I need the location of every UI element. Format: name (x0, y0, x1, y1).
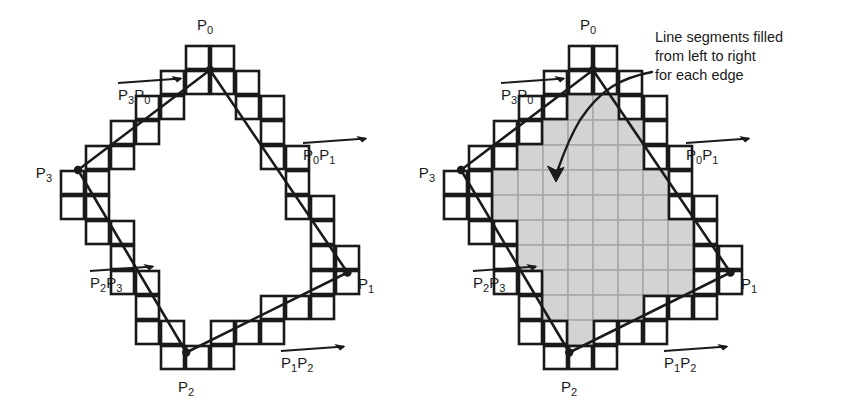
vertex-dot-P0 (206, 66, 214, 74)
vertex-label-P3: P3 (419, 164, 435, 184)
boundary-cell (644, 121, 667, 144)
boundary-cell (469, 221, 492, 244)
boundary-cell (594, 321, 617, 344)
boundary-cell (594, 346, 617, 369)
edge-label-text: P3P0 (501, 86, 533, 106)
boundary-cell (719, 246, 742, 269)
edge-label-text-b: P (134, 86, 144, 103)
filled-cell (593, 170, 618, 195)
boundary-cell (211, 321, 234, 344)
boundary-cell (544, 71, 567, 94)
filled-cell (543, 245, 568, 270)
boundary-cell (261, 296, 284, 319)
filled-cell (568, 270, 593, 295)
filled-cell (618, 145, 643, 170)
filled-cell (568, 170, 593, 195)
edge-label-text-b: P (680, 354, 690, 371)
edge-label-P1P2: P1P2 (281, 345, 344, 374)
filled-cell (543, 220, 568, 245)
edge-label-text: P1P2 (281, 354, 313, 374)
vector-overbar (686, 139, 749, 144)
filled-cell (543, 145, 568, 170)
vertex-dot-P3 (74, 166, 82, 174)
filled-cell (493, 170, 518, 195)
boundary-cell (694, 296, 717, 319)
vertex-label-subscript: 0 (207, 24, 213, 36)
panel-outline-only: P0P1P2P3P3P0P0P1P2P3P1P2 (36, 16, 374, 398)
edge-label-sub-b: 3 (499, 282, 505, 294)
vector-overbar (664, 347, 727, 352)
filled-cell (668, 245, 693, 270)
filled-cell (593, 145, 618, 170)
boundary-cell (519, 321, 542, 344)
vertex-label-P2: P2 (178, 378, 194, 398)
edge-label-P1P2: P1P2 (664, 345, 727, 374)
boundary-cells (61, 46, 359, 369)
boundary-cell (261, 96, 284, 119)
boundary-cell (311, 296, 334, 319)
filled-cell (593, 120, 618, 145)
filled-cell (643, 245, 668, 270)
boundary-cell (186, 346, 209, 369)
edge-label-text: P1P2 (664, 354, 696, 374)
annotation-line: from left to right (655, 48, 756, 64)
filled-cell (593, 295, 618, 320)
edge-label-text: P3P0 (118, 86, 150, 106)
rasterized-polygon-diagram: P0P1P2P3P3P0P0P1P2P3P1P2P0P1P2P3P3P0P0P1… (0, 0, 847, 412)
boundary-cell (544, 346, 567, 369)
edge-label-sub-b: 3 (116, 282, 122, 294)
boundary-cell (694, 196, 717, 219)
filled-cell (543, 195, 568, 220)
vertex-dot-P1 (726, 268, 734, 276)
boundary-cell (161, 346, 184, 369)
filled-cell (668, 270, 693, 295)
vertex-label-subscript: 1 (751, 283, 757, 295)
vertex-label-P2: P2 (561, 378, 577, 398)
vertex-label-P0: P0 (197, 16, 213, 36)
filled-cell (618, 270, 643, 295)
filled-cell (618, 170, 643, 195)
filled-cell (493, 195, 518, 220)
boundary-cell (311, 196, 334, 219)
filled-cell (568, 295, 593, 320)
edge-label-text-b: P (106, 274, 116, 291)
boundary-cell (111, 121, 134, 144)
filled-cell (618, 245, 643, 270)
boundary-cell (669, 296, 692, 319)
boundary-cell (594, 46, 617, 69)
vertex-dot-P0 (589, 66, 597, 74)
filled-cell (518, 195, 543, 220)
filled-cell (543, 120, 568, 145)
boundary-cell (111, 146, 134, 169)
filled-cell (568, 120, 593, 145)
boundary-cell (619, 321, 642, 344)
boundary-cell (444, 196, 467, 219)
edge-label-sub-b: 2 (307, 362, 313, 374)
boundary-cell (694, 271, 717, 294)
vertex-label-P1: P1 (741, 275, 757, 295)
annotation-line: for each edge (655, 67, 744, 83)
filled-cell (568, 220, 593, 245)
boundary-cell (569, 346, 592, 369)
vertex-label-subscript: 3 (429, 172, 435, 184)
vertex-dot-P1 (343, 268, 351, 276)
vertex-dot-P2 (182, 348, 190, 356)
boundary-cell (286, 171, 309, 194)
edge-label-text-b: P (702, 146, 712, 163)
boundary-cell (336, 246, 359, 269)
annotation-line: Line segments filled (655, 29, 783, 45)
edge-label-P0P1: P0P1 (686, 137, 749, 166)
edge-label-sub-b: 1 (712, 154, 718, 166)
edge-label-sub-b: 2 (690, 362, 696, 374)
boundary-cell (669, 171, 692, 194)
filled-cell (543, 270, 568, 295)
boundary-cell (211, 46, 234, 69)
vertex-label-subscript: 0 (590, 24, 596, 36)
boundary-cell (211, 346, 234, 369)
filled-cell (593, 220, 618, 245)
filled-cell (618, 195, 643, 220)
filled-cell (568, 145, 593, 170)
boundary-cell (311, 271, 334, 294)
panel-filled: P0P1P2P3P3P0P0P1P2P3P1P2Line segments fi… (419, 16, 783, 398)
boundary-cell (261, 321, 284, 344)
